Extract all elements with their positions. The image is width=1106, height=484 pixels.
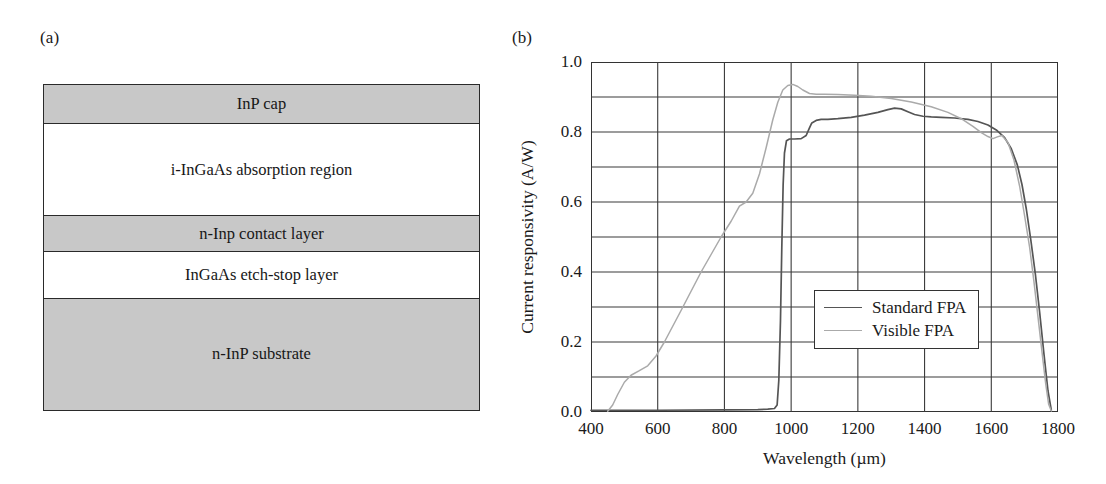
- y-axis-tick-label: 0.6: [561, 192, 591, 212]
- chart-plot-area: Current responsivity (A/W) Wavelength (µ…: [591, 62, 1058, 412]
- layer-ingaas-etch-stop: InGaAs etch-stop layer: [44, 251, 479, 298]
- y-axis-title: Current responsivity (A/W): [517, 140, 538, 333]
- legend-label: Visible FPA: [872, 321, 954, 341]
- y-axis-tick-label: 0.4: [561, 262, 591, 282]
- y-axis-tick-label: 1.0: [561, 52, 591, 72]
- layer-ninp-substrate: n-InP substrate: [44, 298, 479, 410]
- x-axis-tick-label: 1600: [974, 412, 1008, 439]
- epitaxial-layer-stack: InP cap i-InGaAs absorption region n-Inp…: [43, 84, 480, 411]
- layer-ninp-contact: n-Inp contact layer: [44, 215, 479, 251]
- x-axis-tick-label: 1400: [908, 412, 942, 439]
- series-line-standard-fpa: [591, 108, 1051, 410]
- x-axis-tick-label: 1000: [774, 412, 808, 439]
- figure-root: (a) InP cap i-InGaAs absorption region n…: [0, 0, 1106, 484]
- series-line-visible-fpa: [608, 84, 1052, 411]
- x-axis-tick-label: 1800: [1041, 412, 1075, 439]
- x-axis-tick-label: 600: [645, 412, 671, 439]
- x-axis-title: Wavelength (µm): [591, 448, 1058, 469]
- chart-legend: Standard FPA Visible FPA: [814, 290, 979, 349]
- legend-entry-visible-fpa: Visible FPA: [824, 319, 966, 342]
- layer-ingaas-absorption: i-InGaAs absorption region: [44, 123, 479, 216]
- legend-line-swatch: [824, 330, 862, 331]
- x-axis-tick-label: 400: [578, 412, 604, 439]
- layer-label: n-Inp contact layer: [199, 224, 324, 244]
- legend-label: Standard FPA: [872, 298, 966, 318]
- panel-a-device-cross-section: (a) InP cap i-InGaAs absorption region n…: [0, 0, 520, 484]
- panel-b-responsivity-chart: (b) Current responsivity (A/W) Wavelengt…: [520, 0, 1106, 484]
- y-axis-tick-label: 0.8: [561, 122, 591, 142]
- layer-label: n-InP substrate: [212, 344, 311, 364]
- layer-inp-cap: InP cap: [44, 85, 479, 123]
- x-axis-tick-label: 1200: [841, 412, 875, 439]
- legend-line-swatch: [824, 307, 862, 308]
- chart-series-lines: [591, 62, 1058, 412]
- layer-label: InGaAs etch-stop layer: [185, 265, 338, 285]
- panel-b-label: (b): [512, 28, 532, 48]
- legend-entry-standard-fpa: Standard FPA: [824, 296, 966, 319]
- layer-label: i-InGaAs absorption region: [171, 160, 352, 180]
- layer-label: InP cap: [237, 94, 286, 114]
- y-axis-tick-label: 0.2: [561, 332, 591, 352]
- panel-a-label: (a): [40, 28, 59, 48]
- x-axis-tick-label: 800: [712, 412, 738, 439]
